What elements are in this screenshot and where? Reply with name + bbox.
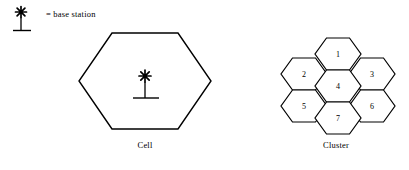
cell-caption: Cell [78,140,212,150]
cluster-cell-number-1: 1 [336,50,340,59]
cluster-cell-number-6: 6 [370,102,374,111]
cluster-caption: Cluster [276,140,396,150]
cluster-cell-number-3: 3 [370,70,374,79]
cluster-cell-number-5: 5 [302,102,306,111]
cluster-cell-number-7: 7 [336,114,340,123]
base-station-antenna-icon [12,4,46,38]
cluster-cell-number-2: 2 [302,70,306,79]
cluster-hexagon-grid: 1234567 [276,30,400,140]
cluster-cell-number-4: 4 [336,82,340,91]
cell-diagram: Cell [78,28,218,168]
cluster-diagram: 1234567 Cluster [276,30,400,170]
legend-label: = base station [46,9,96,19]
base-station-antenna-icon [126,68,168,110]
cellular-network-diagram: = base station Cell [0,0,409,170]
